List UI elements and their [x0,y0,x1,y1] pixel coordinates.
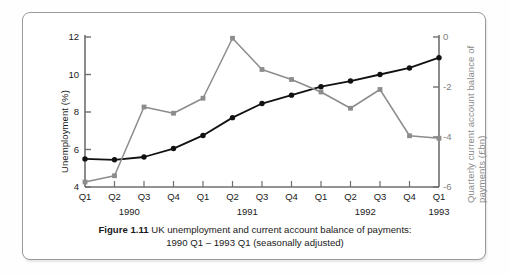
figure-caption: Figure 1.11 UK unemployment and current … [37,223,473,249]
series-marker-1 [230,115,235,120]
series-marker-2 [348,106,353,111]
x-axis-tick-label: Q4 [162,191,186,202]
x-axis-tick-label: Q1 [73,191,97,202]
series-marker-2 [407,133,412,138]
series-marker-1 [318,84,323,89]
x-axis-tick-label: Q1 [309,191,333,202]
left-axis-tick-label: 6 [63,144,79,155]
series-marker-1 [141,154,146,159]
figure-caption-line1: UK unemployment and current account bala… [151,224,411,235]
series-marker-2 [289,77,294,82]
series-marker-2 [378,87,383,92]
series-marker-1 [407,65,412,70]
series-marker-2 [260,67,265,72]
left-axis-tick-label: 8 [63,106,79,117]
series-marker-2 [83,180,88,185]
left-axis-tick-label: 12 [63,31,79,42]
left-axis-tick-label: 10 [63,69,79,80]
figure-frame: Unemployment (%) Quarterly current accou… [22,12,486,260]
x-axis-year-label: 1992 [345,206,385,217]
figure-root: Unemployment (%) Quarterly current accou… [0,0,510,276]
x-axis-tick-label: Q2 [221,191,245,202]
x-axis-tick-label: Q4 [398,191,422,202]
chart-plot-area: Unemployment (%) Quarterly current accou… [23,13,487,225]
series-marker-1 [200,133,205,138]
x-axis-tick-label: Q3 [368,191,392,202]
series-marker-2 [437,136,442,141]
series-line-2 [85,38,439,182]
series-marker-1 [171,146,176,151]
x-axis-tick-label: Q3 [250,191,274,202]
series-marker-2 [112,173,117,178]
x-axis-tick-label: Q3 [132,191,156,202]
x-axis-year-label: 1993 [419,206,459,217]
x-axis-year-label: 1991 [227,206,267,217]
x-axis-tick-label: Q2 [103,191,127,202]
right-axis-tick-label: -4 [443,131,459,142]
x-axis-tick-label: Q4 [280,191,304,202]
series-marker-1 [112,157,117,162]
series-marker-1 [289,92,294,97]
series-marker-2 [201,96,206,101]
figure-caption-number: Figure 1.11 [98,224,148,235]
x-axis-tick-label: Q2 [339,191,363,202]
right-axis-tick-label: 0 [443,31,459,42]
series-marker-2 [171,111,176,116]
x-axis-tick-label: Q1 [191,191,215,202]
series-marker-1 [348,78,353,83]
series-line-1 [85,58,439,160]
series-marker-1 [259,101,264,106]
series-marker-2 [319,90,324,95]
x-axis-year-label: 1990 [109,206,149,217]
x-axis-tick-label: Q1 [427,191,451,202]
series-marker-1 [436,55,441,60]
right-axis-title: Quarterly current account balance of pay… [465,43,487,203]
left-axis-title: Unemployment (%) [59,90,70,173]
series-marker-2 [142,105,147,110]
right-axis-tick-label: -2 [443,81,459,92]
figure-caption-line2: 1990 Q1 – 1993 Q1 (seasonally adjusted) [37,236,473,249]
series-marker-2 [230,36,235,41]
series-marker-1 [377,72,382,77]
series-marker-1 [82,156,87,161]
